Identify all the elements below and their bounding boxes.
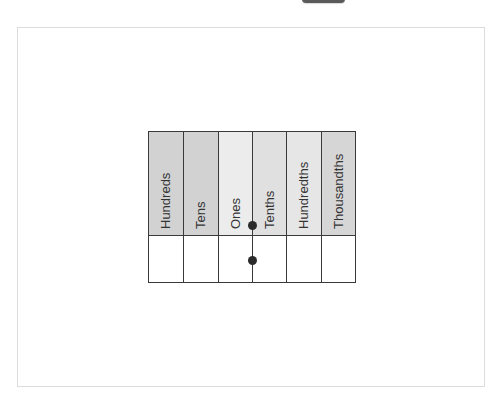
column-header: Thousandths	[322, 132, 355, 236]
column-label: Hundredths	[297, 162, 310, 229]
toolbar-button-edge[interactable]	[302, 0, 345, 3]
place-value-chart: Hundreds Tens Ones Tenths Hundredths Tho…	[148, 131, 356, 283]
decimal-point-header-dot	[248, 221, 257, 230]
column-header: Tens	[184, 132, 218, 236]
column-header: Hundreds	[149, 132, 183, 236]
column-label: Hundreds	[159, 173, 172, 229]
column-cell	[287, 236, 321, 282]
column-hundreds: Hundreds	[149, 132, 184, 282]
column-cell	[149, 236, 183, 282]
column-header: Hundredths	[287, 132, 321, 236]
column-hundredths: Hundredths	[287, 132, 322, 282]
column-header: Ones	[219, 132, 252, 236]
column-label: Tenths	[263, 191, 276, 229]
column-tens: Tens	[184, 132, 219, 282]
column-label: Ones	[229, 198, 242, 229]
column-header: Tenths	[253, 132, 286, 236]
column-cell	[184, 236, 218, 282]
column-tenths: Tenths	[253, 132, 287, 282]
column-cell	[253, 236, 286, 282]
column-cell	[322, 236, 355, 282]
column-label: Tens	[194, 202, 207, 229]
decimal-point-body-dot	[248, 256, 257, 265]
column-label: Thousandths	[332, 154, 345, 229]
column-thousandths: Thousandths	[322, 132, 355, 282]
